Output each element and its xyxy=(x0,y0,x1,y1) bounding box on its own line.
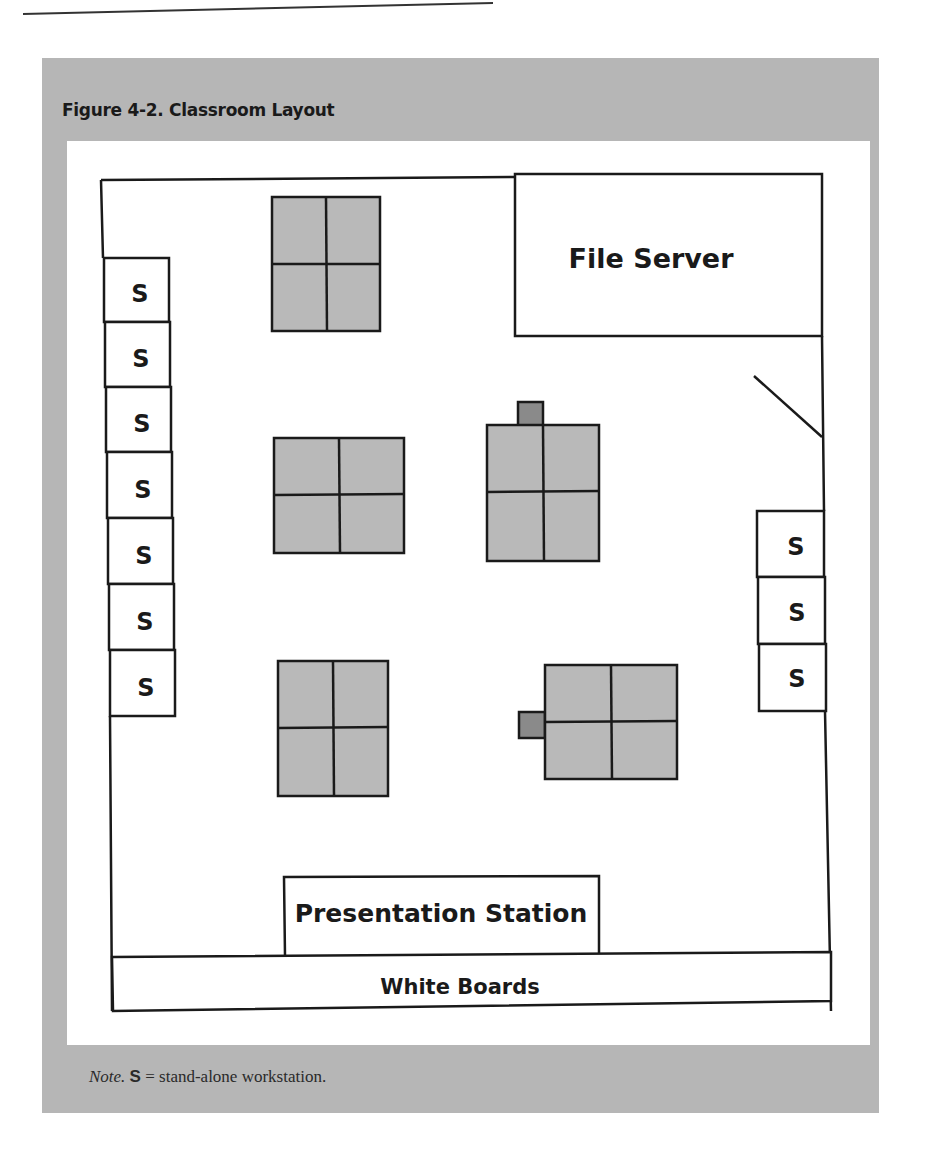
table-cluster-5[interactable] xyxy=(519,665,677,779)
white-boards-label: White Boards xyxy=(380,975,539,999)
figure-note: Note. S = stand-alone workstation. xyxy=(89,1067,326,1087)
svg-text:S: S xyxy=(134,476,151,504)
workstation-left-3[interactable]: S xyxy=(106,387,171,452)
svg-text:S: S xyxy=(137,674,154,702)
file-server: File Server xyxy=(515,174,822,336)
left-workstation-column: S S S S S S S xyxy=(104,258,175,716)
table-accessory xyxy=(518,402,543,426)
table-cluster-3[interactable] xyxy=(487,402,599,561)
workstation-right-3[interactable]: S xyxy=(759,644,826,711)
workstation-left-2[interactable]: S xyxy=(105,322,170,387)
workstation-left-4[interactable]: S xyxy=(107,452,172,518)
file-server-label: File Server xyxy=(569,243,735,274)
svg-text:S: S xyxy=(136,608,153,636)
workstation-right-2[interactable]: S xyxy=(758,577,825,644)
workstation-left-7[interactable]: S xyxy=(110,650,175,716)
svg-text:S: S xyxy=(131,280,148,308)
note-text: = stand-alone workstation. xyxy=(141,1067,326,1086)
classroom-diagram: File Server S S S S S S S S S S xyxy=(0,0,930,1162)
svg-text:S: S xyxy=(132,345,149,373)
table-accessory xyxy=(519,712,545,738)
workstation-left-6[interactable]: S xyxy=(109,584,174,650)
right-workstation-column: S S S xyxy=(757,511,826,711)
svg-text:S: S xyxy=(788,665,805,693)
note-prefix: Note. xyxy=(89,1067,125,1086)
svg-text:S: S xyxy=(787,533,804,561)
presentation-station-label: Presentation Station xyxy=(295,899,588,928)
svg-text:S: S xyxy=(788,599,805,627)
workstation-right-1[interactable]: S xyxy=(757,511,824,577)
table-cluster-4[interactable] xyxy=(278,661,388,796)
svg-text:S: S xyxy=(133,410,150,438)
note-symbol: S xyxy=(130,1067,141,1086)
workstation-left-5[interactable]: S xyxy=(108,518,173,584)
presentation-station: Presentation Station xyxy=(284,876,599,956)
svg-text:S: S xyxy=(135,542,152,570)
room-wall-top xyxy=(101,177,515,180)
workstation-left-1[interactable]: S xyxy=(104,258,169,322)
table-cluster-1[interactable] xyxy=(272,197,380,331)
white-boards: White Boards xyxy=(112,952,831,1011)
door-swing xyxy=(754,376,822,437)
table-cluster-2[interactable] xyxy=(274,438,404,553)
